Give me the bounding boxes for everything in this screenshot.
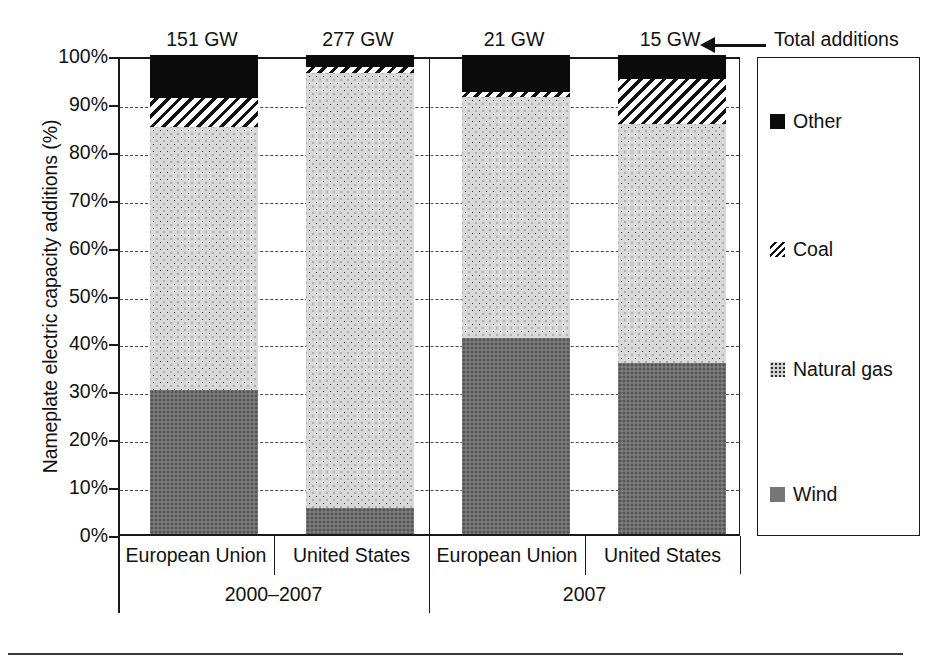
y-axis-tick-label: 60% xyxy=(22,237,108,260)
bar-segment-coal xyxy=(618,79,726,125)
bar-segment-coal xyxy=(150,98,258,127)
bar-segment-wind xyxy=(462,338,570,534)
y-axis-tick-mark xyxy=(109,488,118,490)
y-axis-tick-mark xyxy=(109,201,118,203)
bar-segment-natural-gas xyxy=(462,97,570,338)
y-axis-tick-mark xyxy=(109,392,118,394)
x-axis-category-label: United States xyxy=(585,536,740,575)
y-axis-tick-mark xyxy=(109,440,118,442)
stacked-bar xyxy=(462,55,570,534)
legend-swatch-icon xyxy=(770,487,785,502)
stacked-bar xyxy=(618,55,726,534)
y-axis-tick-mark xyxy=(109,344,118,346)
bar-segment-wind xyxy=(306,508,414,534)
x-axis-category-label: European Union xyxy=(118,536,274,575)
chart-legend: OtherCoalNatural gasWind xyxy=(757,57,920,536)
y-axis-tick-label: 80% xyxy=(22,141,108,164)
bar-segment-other xyxy=(150,55,258,98)
bar-segment-wind xyxy=(150,390,258,534)
x-axis-category-label: European Union xyxy=(429,536,585,575)
y-axis-tick-label: 0% xyxy=(22,524,108,547)
legend-item-other[interactable]: Other xyxy=(770,110,842,133)
bar-segment-coal xyxy=(462,92,570,97)
y-axis-tick-mark xyxy=(109,57,118,59)
group-divider xyxy=(429,57,430,613)
x-axis-category-separator xyxy=(274,536,275,575)
y-axis-tick-label: 20% xyxy=(22,428,108,451)
y-axis-tick-mark xyxy=(109,297,118,299)
y-axis-tick-label: 10% xyxy=(22,476,108,499)
bar-segment-natural-gas xyxy=(306,73,414,508)
stacked-bar xyxy=(306,55,414,534)
x-axis-category-separator xyxy=(585,536,586,575)
x-axis-right-line xyxy=(740,536,741,574)
bar-segment-natural-gas xyxy=(150,127,258,390)
y-axis-tick-mark xyxy=(109,153,118,155)
bar-segment-other xyxy=(306,55,414,67)
x-axis-group-layer: 2000–20072007 xyxy=(118,575,740,613)
y-axis-tick-label: 30% xyxy=(22,380,108,403)
total-additions-value: 151 GW xyxy=(132,28,272,51)
y-axis-tick-mark xyxy=(109,105,118,107)
total-additions-value: 21 GW xyxy=(444,28,584,51)
y-axis-tick-label: 40% xyxy=(22,332,108,355)
chart-figure: Nameplate electric capacity additions (%… xyxy=(0,0,931,666)
x-axis-group-label: 2007 xyxy=(429,575,740,613)
legend-item-coal[interactable]: Coal xyxy=(770,238,833,261)
legend-item-label: Natural gas xyxy=(793,358,893,381)
bar-segment-wind xyxy=(618,363,726,534)
stacked-bar xyxy=(150,55,258,534)
total-additions-caption: Total additions xyxy=(774,28,899,51)
legend-item-label: Other xyxy=(793,110,842,133)
legend-item-natural-gas[interactable]: Natural gas xyxy=(770,358,893,381)
legend-swatch-icon xyxy=(770,362,785,377)
legend-swatch-icon xyxy=(770,114,785,129)
legend-item-label: Coal xyxy=(793,238,833,261)
legend-swatch-icon xyxy=(770,242,785,257)
y-axis-tick-label: 70% xyxy=(22,189,108,212)
bottom-rule xyxy=(8,653,903,655)
x-axis-group-label: 2000–2007 xyxy=(118,575,429,613)
legend-item-wind[interactable]: Wind xyxy=(770,483,837,506)
y-axis-tick-label: 100% xyxy=(22,45,108,68)
bar-segment-other xyxy=(618,55,726,79)
y-axis-tick-mark xyxy=(109,249,118,251)
total-additions-value: 277 GW xyxy=(288,28,428,51)
legend-item-label: Wind xyxy=(793,483,837,506)
y-axis-tick-label: 50% xyxy=(22,285,108,308)
x-axis-category-label: United States xyxy=(274,536,429,575)
total-additions-arrow-icon xyxy=(700,39,766,53)
y-axis-tick-label: 90% xyxy=(22,93,108,116)
y-axis-tick-mark xyxy=(109,536,118,538)
bar-segment-natural-gas xyxy=(618,124,726,362)
bar-segment-other xyxy=(462,55,570,92)
bar-segment-coal xyxy=(306,67,414,73)
x-axis-category-layer: European UnionUnited StatesEuropean Unio… xyxy=(118,536,740,575)
